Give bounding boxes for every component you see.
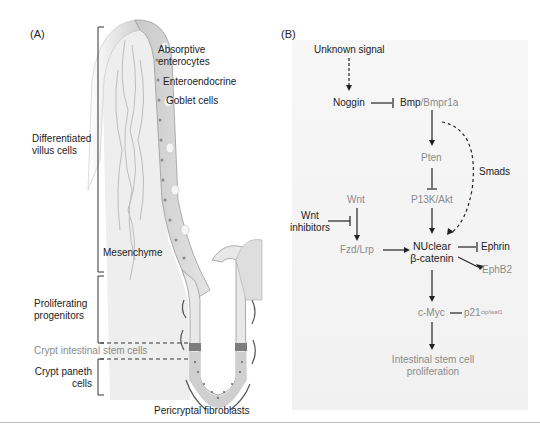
label-line: proliferation	[385, 366, 481, 378]
label-line: Crypt paneth	[32, 366, 92, 378]
bottom-divider	[0, 422, 540, 423]
node-p21-superscript: cip/waf1	[481, 309, 503, 315]
label-line: cells	[32, 378, 92, 390]
stem-cell-band-left	[189, 343, 201, 351]
node-c-myc: c-Myc	[418, 307, 445, 319]
paneth-region	[190, 352, 246, 408]
label-line: Proliferating	[34, 298, 87, 310]
label-line: inhibitors	[285, 222, 335, 234]
node-bmp-bmpr1a: Bmp/Bmpr1a	[400, 97, 458, 109]
bracket-paneth	[98, 359, 104, 395]
node-noggin: Noggin	[333, 97, 365, 109]
node-wnt: Wnt	[347, 194, 365, 206]
panel-a-letter: (A)	[30, 28, 45, 40]
node-p21-text: p21	[464, 307, 481, 318]
label-goblet-cells: Goblet cells	[166, 95, 218, 107]
label-mesenchyme: Mesenchyme	[103, 247, 162, 259]
stem-cell-band-right	[235, 343, 247, 351]
node-ephb2: EphB2	[482, 264, 512, 276]
label-line: NUclear	[406, 240, 458, 252]
label-proliferating-progenitors: Proliferating progenitors	[34, 298, 87, 322]
node-bmpr1a: /Bmpr1a	[421, 97, 459, 108]
label-line: β-catenin	[406, 252, 458, 264]
label-line: Differentiated	[32, 133, 91, 145]
label-line: Absorptive	[158, 44, 210, 56]
label-crypt-paneth-cells: Crypt paneth cells	[32, 366, 92, 390]
label-pericryptal-fibroblasts: Pericryptal fibroblasts	[154, 405, 250, 417]
label-line: enterocytes	[158, 56, 210, 68]
edge-nuclear-ephb2	[458, 257, 478, 267]
node-nuclear-beta-catenin: NUclear β-catenin	[406, 240, 458, 264]
label-line: Wnt	[285, 210, 335, 222]
node-pi3k-akt: P13K/Akt	[411, 194, 453, 206]
node-unknown-signal: Unknown signal	[314, 44, 385, 56]
bracket-proliferating	[98, 276, 104, 343]
node-fzd-lrp: Fzd/Lrp	[340, 244, 374, 256]
node-intestinal-stem-cell-proliferation: Intestinal stem cell proliferation	[385, 354, 481, 378]
label-line: progenitors	[34, 310, 87, 322]
label-enteroendocrine: Enteroendocrine	[163, 76, 236, 88]
node-ephrin: Ephrin	[481, 241, 510, 253]
label-line: Intestinal stem cell	[385, 354, 481, 366]
node-wnt-inhibitors: Wnt inhibitors	[285, 210, 335, 234]
node-pten: Pten	[421, 152, 442, 164]
label-differentiated-villus-cells: Differentiated villus cells	[32, 133, 91, 157]
edge-bmp-nuclear-smads	[442, 122, 473, 232]
label-smads: Smads	[479, 166, 510, 178]
label-absorptive-enterocytes: Absorptive enterocytes	[158, 44, 210, 68]
label-line: villus cells	[32, 145, 91, 157]
node-bmp: Bmp	[400, 97, 421, 108]
panel-b-letter: (B)	[281, 28, 296, 40]
node-p21: p21cip/waf1	[464, 307, 503, 319]
label-crypt-stem-cells: Crypt intestinal stem cells	[34, 345, 147, 357]
